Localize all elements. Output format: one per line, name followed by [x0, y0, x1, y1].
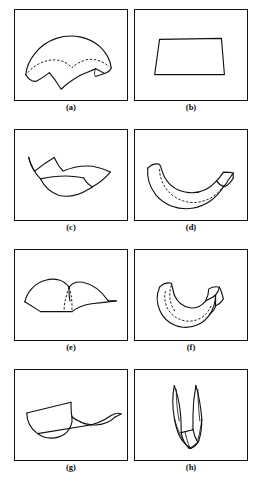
saddle-dome-patch-with-dashed-fold-curve — [26, 36, 111, 89]
ridge-surface-patch-with-dashed-crease — [25, 279, 116, 311]
panel-h — [134, 369, 248, 461]
bent-band-patch-with-dashed-curve — [148, 164, 234, 209]
caption-a: (a) — [14, 102, 128, 112]
trough-surface-patch-with-dashed-edge — [27, 402, 121, 438]
panel-b-artwork — [135, 10, 247, 100]
panel-c-artwork — [15, 130, 127, 220]
panel-d — [134, 129, 248, 221]
narrow-pinched-vertical-fold — [173, 386, 202, 449]
caption-g: (g) — [14, 462, 128, 472]
panel-a-artwork — [15, 10, 127, 100]
caption-c: (c) — [14, 222, 128, 232]
figure-plate: (a) (b) (c) — [0, 0, 262, 494]
planar-quadrilateral-patch — [155, 38, 225, 74]
panel-f-artwork — [135, 250, 247, 340]
panel-a — [14, 9, 128, 101]
panel-h-artwork — [135, 370, 247, 460]
panel-e-artwork — [15, 250, 127, 340]
caption-e: (e) — [14, 342, 128, 352]
folded-elbow-band-with-dashed-curve — [157, 283, 223, 327]
panel-g — [14, 369, 128, 461]
panel-f — [134, 249, 248, 341]
bowl-shaped-patch-with-cusps — [29, 157, 111, 196]
caption-f: (f) — [134, 342, 248, 352]
panel-d-artwork — [135, 130, 247, 220]
panel-b — [134, 9, 248, 101]
caption-d: (d) — [134, 222, 248, 232]
panel-g-artwork — [15, 370, 127, 460]
caption-h: (h) — [134, 462, 248, 472]
panel-e — [14, 249, 128, 341]
panel-c — [14, 129, 128, 221]
caption-b: (b) — [134, 102, 248, 112]
